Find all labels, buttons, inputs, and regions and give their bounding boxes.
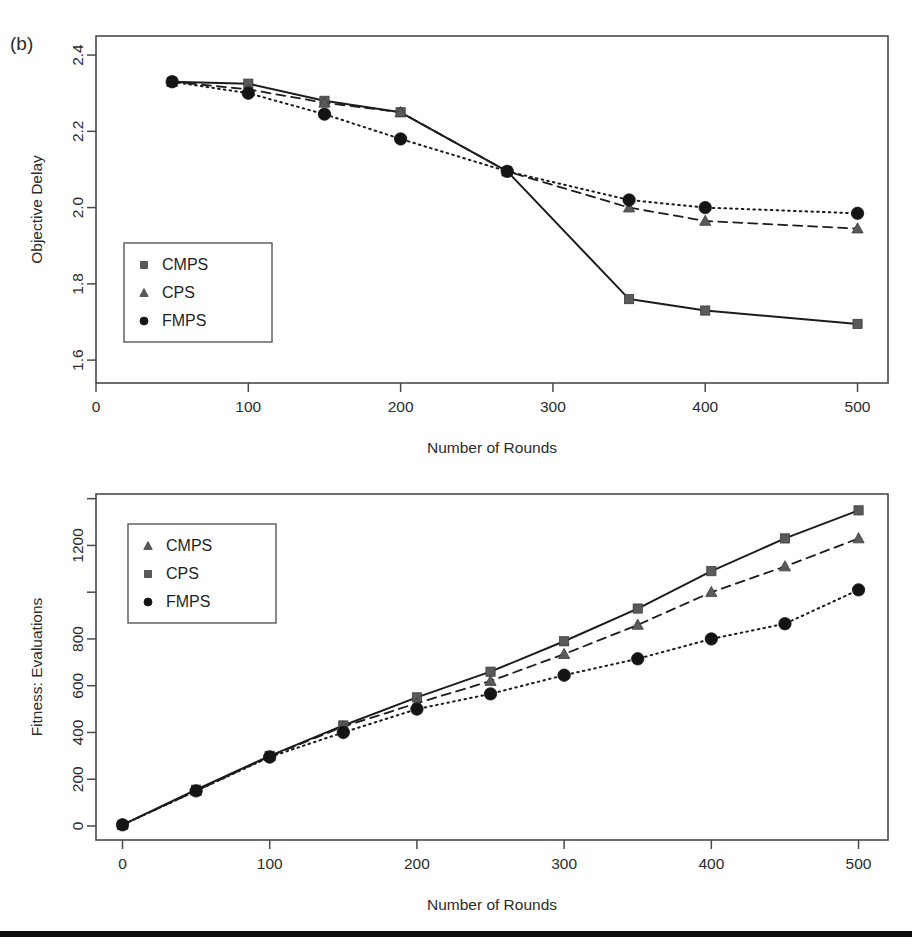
y-tick-label: 2.2 [69,121,86,143]
marker-square [145,571,152,578]
x-tick-label: 200 [388,398,414,415]
x-tick-label: 400 [698,855,724,872]
marker-circle [623,194,635,206]
legend: CMPSCPSFMPS [128,524,276,623]
marker-circle [166,76,178,88]
y-tick-label: 2.4 [69,44,86,66]
marker-square [633,604,642,613]
marker-circle [242,87,254,99]
x-tick-label: 500 [845,398,871,415]
legend-marker-cps [145,571,152,578]
legend-label-fmps: FMPS [166,593,210,610]
marker-circle [699,201,711,213]
legend-marker-cmps [141,262,148,269]
series-path [172,82,857,229]
marker-circle [484,688,496,700]
series-fmps [122,590,858,825]
y-tick-label: 400 [69,719,86,745]
y-tick-label: 600 [69,672,86,698]
x-tick-label: 0 [92,398,101,415]
y-axis-title: Fitness: Evaluations [28,597,45,736]
x-tick-label: 300 [551,855,577,872]
series-path [172,82,857,324]
marker-circle [337,726,349,738]
marker-triangle [559,648,570,658]
legend-label-fmps: FMPS [162,312,206,329]
marker-circle [140,317,148,325]
marker-square [141,262,148,269]
panel-label-b: (b) [10,33,33,54]
y-tick-label: 0 [69,821,86,830]
marker-circle [318,108,330,120]
y-tick-label: 1.6 [69,349,86,371]
series-path [122,590,858,825]
series-cps [172,82,857,229]
marker-circle [411,703,423,715]
footer-rule [0,931,912,937]
legend-marker-fmps [140,317,148,325]
x-tick-label: 300 [540,398,566,415]
marker-square [560,637,569,646]
series-fmps [172,82,857,214]
marker-square [701,306,710,315]
legend-label-cmps: CMPS [166,537,212,554]
figure-root: (b) 01002003004005001.61.82.02.22.4Numbe… [0,0,912,950]
marker-square [624,295,633,304]
marker-square [780,534,789,543]
marker-circle [394,133,406,145]
x-tick-label: 400 [692,398,718,415]
marker-square [707,567,716,576]
series-path [172,82,857,214]
x-axis-title: Number of Rounds [427,896,557,913]
x-tick-label: 200 [404,855,430,872]
legend-label-cps: CPS [166,565,199,582]
x-tick-label: 0 [118,855,127,872]
y-tick-label: 800 [69,626,86,652]
marker-circle [144,598,152,606]
legend-label-cmps: CMPS [162,256,208,273]
y-tick-label: 1.8 [69,273,86,295]
marker-triangle [632,619,643,629]
marker-circle [779,618,791,630]
marker-circle [190,785,202,797]
legend-label-cps: CPS [162,284,195,301]
x-axis-title: Number of Rounds [427,439,557,456]
marker-circle [632,653,644,665]
legend: CMPSCPSFMPS [124,243,272,342]
y-tick-label: 2.0 [69,196,86,218]
series-cmps [172,82,857,324]
marker-circle [705,633,717,645]
marker-circle [558,669,570,681]
marker-circle [851,207,863,219]
marker-circle [264,751,276,763]
x-tick-label: 100 [257,855,283,872]
marker-circle [852,584,864,596]
marker-circle [116,819,128,831]
legend-marker-fmps [144,598,152,606]
markers-fmps [166,76,864,220]
x-tick-label: 100 [235,398,261,415]
marker-triangle [485,675,496,685]
chart-objective-delay: 01002003004005001.61.82.02.22.4Number of… [28,36,888,456]
marker-square [854,506,863,515]
marker-circle [501,165,513,177]
y-tick-label: 1200 [69,528,86,563]
marker-triangle [779,561,790,571]
y-tick-label: 200 [69,766,86,792]
x-tick-label: 500 [846,855,872,872]
marker-triangle [853,533,864,543]
marker-square [853,319,862,328]
chart-fitness-evaluations: 010020030040050002004006008001200Number … [28,494,888,913]
y-axis-title: Objective Delay [28,155,45,264]
